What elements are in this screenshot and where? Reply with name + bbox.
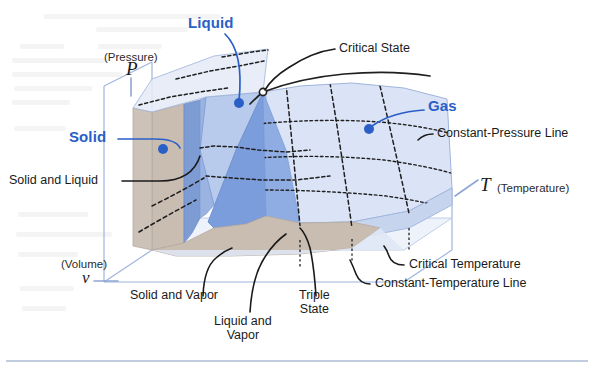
callout-triple-state: Triple State: [299, 288, 330, 317]
solid-leader-dot: [158, 144, 168, 154]
callout-liquid-and-vapor-line1: Liquid and: [214, 314, 272, 328]
callout-solid-and-liquid: Solid and Liquid: [9, 173, 98, 187]
leader-constant-temperature-line: [350, 260, 370, 284]
solid-liquid-strip: [184, 100, 200, 243]
pressure-axis-symbol: P: [126, 58, 138, 80]
volume-axis-symbol: v: [82, 268, 90, 288]
callout-triple-state-line2: State: [299, 302, 330, 316]
callout-solid-and-vapor: Solid and Vapor: [130, 288, 218, 302]
t-axis-tick: [455, 180, 478, 196]
callout-constant-pressure-line: Constant-Pressure Line: [437, 126, 568, 140]
figure-canvas: (Pressure) P (Volume) v T (Temperature) …: [0, 0, 593, 377]
callout-liquid-and-vapor: Liquid and Vapor: [214, 314, 272, 343]
region-label-gas: Gas: [428, 97, 457, 114]
solid-region-left-face: [133, 108, 152, 250]
callout-critical-state: Critical State: [339, 41, 410, 55]
liquid-leader-dot: [234, 98, 244, 108]
leader-critical-state: [265, 49, 335, 90]
callout-constant-temperature-line: Constant-Temperature Line: [375, 276, 526, 290]
callout-liquid-and-vapor-line2: Vapor: [214, 328, 272, 342]
gas-leader-dot: [364, 124, 374, 134]
region-label-solid: Solid: [69, 128, 106, 145]
solid-region-plane: [152, 104, 184, 250]
callout-triple-state-line1: Triple: [299, 288, 330, 302]
region-label-liquid: Liquid: [188, 14, 234, 31]
callout-critical-temperature: Critical Temperature: [409, 257, 521, 271]
temperature-axis-symbol: T: [480, 174, 491, 196]
temperature-axis-name: (Temperature): [497, 182, 569, 194]
